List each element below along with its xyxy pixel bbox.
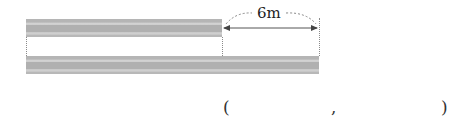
answer-blank-2[interactable] [342,97,437,117]
comma-separator: , [331,97,336,117]
answer-blank-1[interactable] [236,97,326,117]
open-paren: ( [223,97,230,117]
close-paren: ) [441,97,448,117]
difference-label: 6m [257,4,281,22]
